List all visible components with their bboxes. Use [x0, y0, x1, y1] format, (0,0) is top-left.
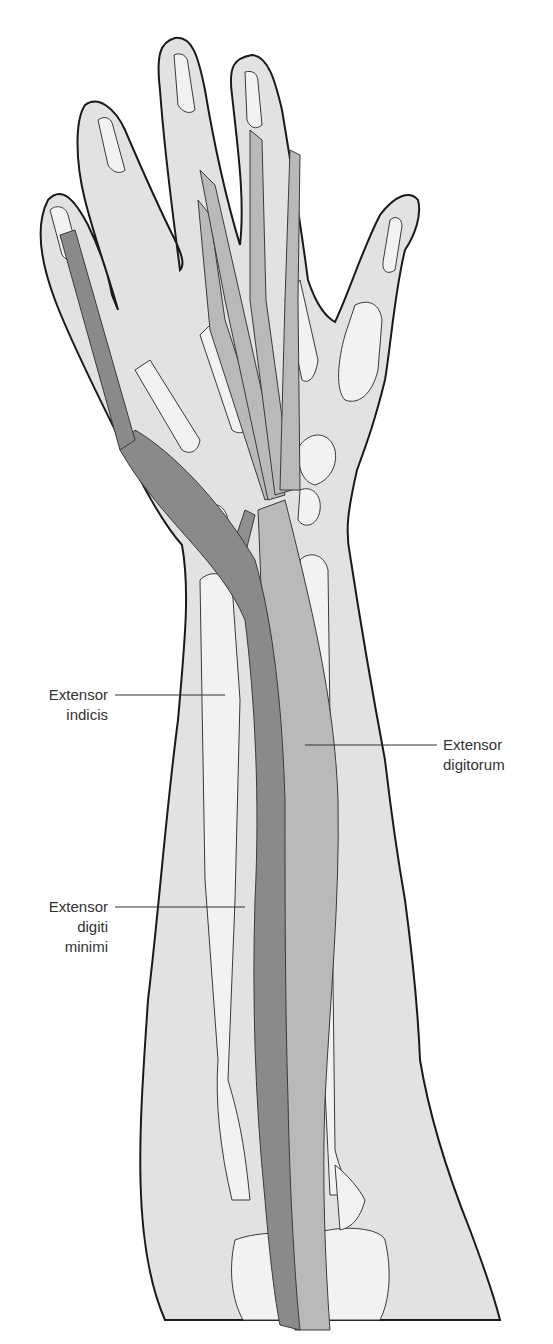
label-line: Extensor: [49, 897, 108, 917]
label-line: Extensor: [49, 685, 108, 705]
label-line: indicis: [49, 705, 108, 725]
label-line: digiti: [49, 917, 108, 937]
label-extensor-digitorum: Extensor digitorum: [443, 735, 505, 775]
forearm-hand-illustration: [0, 0, 553, 1344]
label-line: minimi: [49, 937, 108, 957]
label-line: Extensor: [443, 735, 505, 755]
label-line: digitorum: [443, 755, 505, 775]
label-extensor-indicis: Extensor indicis: [49, 685, 108, 725]
label-extensor-digiti-minimi: Extensor digiti minimi: [49, 897, 108, 957]
